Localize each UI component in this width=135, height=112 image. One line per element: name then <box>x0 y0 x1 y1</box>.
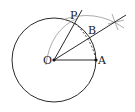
label-b: B <box>88 25 96 36</box>
label-o: O <box>43 55 52 66</box>
diagram-svg <box>0 0 135 112</box>
ray-ob <box>54 15 126 60</box>
geometry-diagram: O A P B <box>0 0 135 112</box>
label-p: P <box>70 10 77 21</box>
label-a: A <box>98 55 106 66</box>
ray-op <box>54 10 82 60</box>
point-o <box>52 58 55 61</box>
